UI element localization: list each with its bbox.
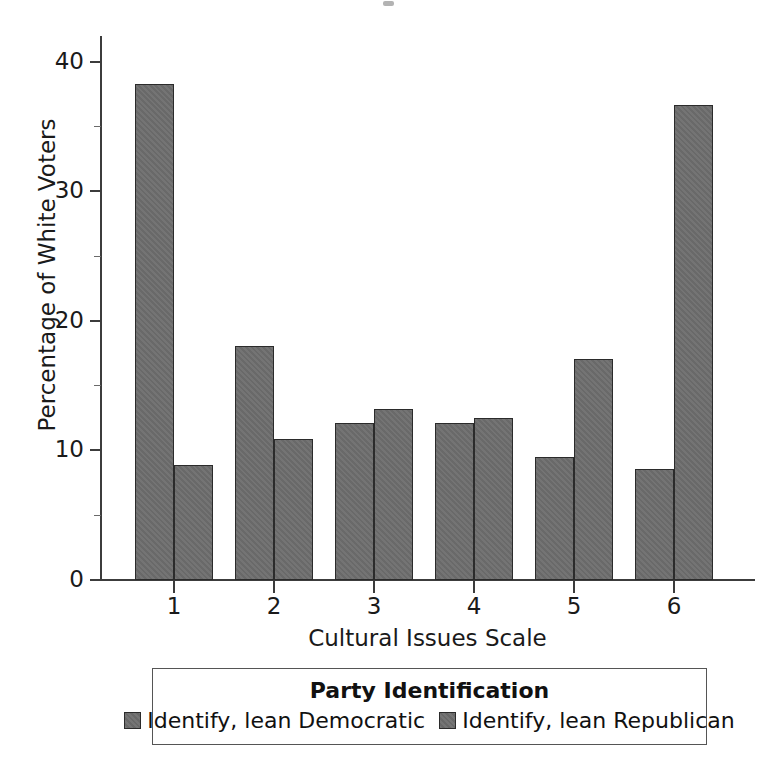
bar-4-series-1 [435,423,474,580]
bar-3-series-1 [335,423,374,580]
bar-5-series-2 [574,359,613,580]
bar-chart-figure: 010203040 123456 Percentage of White Vot… [0,0,777,778]
y-tick-label-wrap: 40 [20,62,84,63]
bar-5-series-1 [535,457,574,580]
scan-artifact [383,1,394,6]
legend-label: Identify, lean Republican [462,707,735,735]
legend-swatch-icon [439,712,456,729]
bar-2-series-2 [274,439,313,580]
x-tick-label-3: 3 [354,594,394,619]
legend-title: Party Identification [163,677,696,705]
x-tick-label-1: 1 [154,594,194,619]
x-tick-label-4: 4 [454,594,494,619]
legend-entries: Identify, lean DemocraticIdentify, lean … [163,707,696,735]
legend-swatch-icon [124,712,141,729]
x-tick-2 [273,581,275,593]
legend-entry-1: Identify, lean Democratic [124,707,425,735]
x-tick-3 [373,581,375,593]
legend-box: Party Identification Identify, lean Demo… [152,668,707,745]
x-tick-label-6: 6 [654,594,694,619]
x-tick-4 [473,581,475,593]
x-tick-5 [573,581,575,593]
bar-2-series-1 [235,346,274,580]
bar-1-series-2 [174,465,213,580]
legend-entry-2: Identify, lean Republican [439,707,735,735]
legend-label: Identify, lean Democratic [147,707,425,735]
x-tick-label-2: 2 [254,594,294,619]
bar-6-series-1 [635,469,674,580]
plot-area [100,36,740,580]
x-tick-label-5: 5 [554,594,594,619]
bar-3-series-2 [374,409,413,580]
y-tick-label-0: 0 [24,568,84,591]
bar-1-series-1 [135,84,174,580]
x-tick-1 [173,581,175,593]
y-axis-label: Percentage of White Voters [34,65,60,485]
y-tick-label-wrap: 0 [20,580,84,581]
x-tick-6 [673,581,675,593]
x-axis-label: Cultural Issues Scale [100,625,755,651]
bar-4-series-2 [474,418,513,580]
bar-6-series-2 [674,105,713,580]
